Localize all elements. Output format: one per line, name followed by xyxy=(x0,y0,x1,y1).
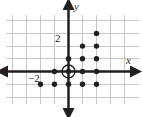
data-point xyxy=(94,69,99,74)
x-axis-label: x xyxy=(126,55,131,66)
data-point xyxy=(94,31,99,36)
data-point xyxy=(80,43,85,48)
x-axis-tick-label-negative-2: −2 xyxy=(28,73,40,84)
y-axis-label: y xyxy=(74,1,79,12)
data-point xyxy=(94,56,99,61)
data-point xyxy=(66,56,71,61)
grid-lines xyxy=(6,15,139,104)
data-point xyxy=(94,43,99,48)
data-point xyxy=(52,82,57,87)
data-point xyxy=(66,82,71,87)
data-point xyxy=(52,69,57,74)
coordinate-plane-figure: y x 2 −2 xyxy=(0,0,142,117)
data-point xyxy=(94,82,99,87)
data-point xyxy=(80,69,85,74)
data-point-origin xyxy=(66,69,71,74)
data-point xyxy=(80,56,85,61)
y-axis-tick-label-2: 2 xyxy=(55,33,61,44)
coordinate-plane-svg xyxy=(0,0,142,117)
data-point xyxy=(80,82,85,87)
